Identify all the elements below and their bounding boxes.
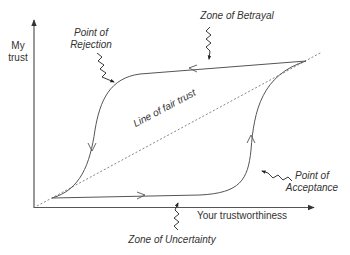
- direction-arrow-right: [247, 135, 255, 143]
- x-axis-label: Your trustworthiness: [197, 210, 287, 221]
- point-of-rejection-label-line2: Rejection: [70, 39, 112, 50]
- direction-arrow-top: [189, 65, 197, 72]
- direction-arrow-bottom: [137, 192, 145, 199]
- point-of-acceptance-label-line1: Point of: [295, 170, 330, 181]
- y-axis-label-line2: trust: [8, 52, 28, 63]
- betrayal-pointer-icon: [206, 27, 211, 59]
- zone-of-betrayal-label: Zone of Betrayal: [199, 10, 274, 21]
- point-of-rejection-label-line1: Point of: [74, 27, 109, 38]
- point-of-acceptance-label-line2: Acceptance: [285, 182, 339, 193]
- trust-diagram: My trust Your trustworthiness Point of R…: [0, 0, 350, 255]
- acceptance-pointer-icon: [262, 171, 292, 181]
- line-of-fair-trust-label: Line of fair trust: [131, 86, 198, 129]
- y-axis-label-line1: My: [11, 40, 24, 51]
- zone-of-uncertainty-label: Zone of Uncertainty: [127, 234, 216, 245]
- rejection-pointer-icon: [97, 53, 114, 82]
